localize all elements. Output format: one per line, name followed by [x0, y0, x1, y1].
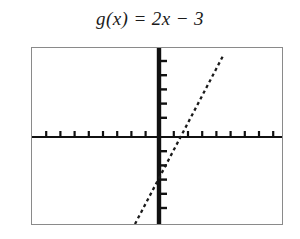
page-title: g(x) = 2x − 3: [0, 6, 300, 32]
graph-frame: [31, 47, 283, 225]
function-curve: [135, 54, 224, 224]
y-axis-ticks: [161, 61, 167, 208]
screenshot-root: g(x) = 2x − 3: [0, 0, 300, 239]
coordinate-plane: [32, 48, 282, 224]
